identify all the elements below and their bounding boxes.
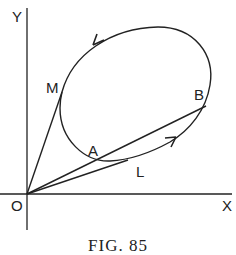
y-axis-label: Y [12, 9, 22, 24]
point-a-label: A [88, 143, 98, 158]
point-m-label: M [46, 80, 59, 95]
direction-arrow-top-icon [93, 34, 104, 45]
segment-ob [27, 106, 206, 194]
segment-ol [27, 160, 128, 194]
point-l-label: L [136, 164, 144, 179]
point-b-label: B [194, 87, 204, 102]
origin-label: O [11, 198, 23, 213]
x-axis-label: X [222, 198, 232, 213]
figure-caption: FIG. 85 [0, 236, 236, 255]
